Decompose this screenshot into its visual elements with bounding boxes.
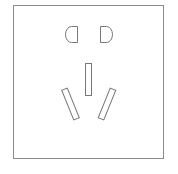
neutral-slot-icon <box>98 88 116 120</box>
faceplate-frame <box>14 6 164 159</box>
right-pin-slot-icon <box>101 27 113 43</box>
socket-diagram: Power outlet (socket) line drawing <box>0 0 178 174</box>
socket-svg <box>0 0 178 174</box>
earth-slot-icon <box>86 64 92 96</box>
live-slot-icon <box>62 88 80 120</box>
left-pin-slot-icon <box>66 27 78 43</box>
